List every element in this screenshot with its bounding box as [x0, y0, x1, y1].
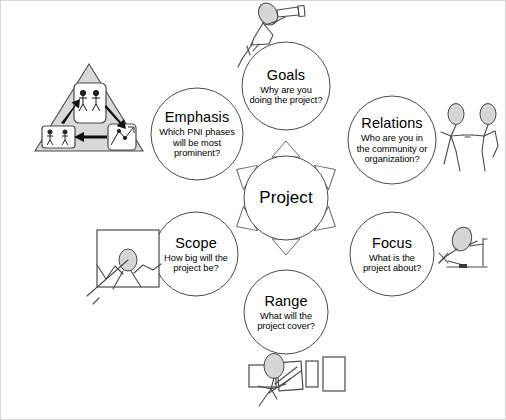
node-focus-label: Focus — [372, 235, 412, 251]
node-emphasis-description: Which PNI phases will be most prominent? — [151, 127, 243, 158]
node-focus-description: What is the project about? — [350, 253, 434, 274]
node-project[interactable]: Project — [244, 156, 328, 240]
node-range-label: Range — [264, 293, 307, 309]
stick-figure-with-magnifying-glass-icon — [439, 225, 487, 268]
two-stick-figures-holding-hands-icon — [441, 104, 498, 172]
node-scope-description: How big will the project be? — [154, 253, 238, 274]
triangle-with-three-phase-boxes-icon — [35, 64, 143, 151]
node-range-description: What will the project cover? — [244, 311, 328, 332]
node-scope-label: Scope — [175, 235, 217, 251]
node-relations-label: Relations — [361, 115, 422, 131]
node-goals-label: Goals — [267, 67, 305, 83]
stick-figure-with-panels-icon — [249, 354, 345, 407]
node-relations-description: Who are you in the community or organiza… — [348, 133, 436, 164]
node-focus[interactable]: Focus What is the project about? — [350, 212, 434, 296]
diagram-canvas: .cir{fill:#ffffff;stroke:#4a4a4a;stroke-… — [0, 0, 506, 420]
node-relations[interactable]: Relations Who are you in the community o… — [348, 96, 436, 184]
node-goals-description: Why are you doing the project? — [242, 85, 330, 106]
node-goals[interactable]: Goals Why are you doing the project? — [242, 42, 330, 130]
node-project-label: Project — [259, 190, 313, 206]
node-emphasis[interactable]: Emphasis Which PNI phases will be most p… — [151, 88, 243, 180]
node-scope[interactable]: Scope How big will the project be? — [154, 212, 238, 296]
node-range[interactable]: Range What will the project cover? — [244, 270, 328, 354]
node-emphasis-label: Emphasis — [165, 109, 229, 125]
stick-figure-in-frame-icon — [87, 230, 161, 304]
